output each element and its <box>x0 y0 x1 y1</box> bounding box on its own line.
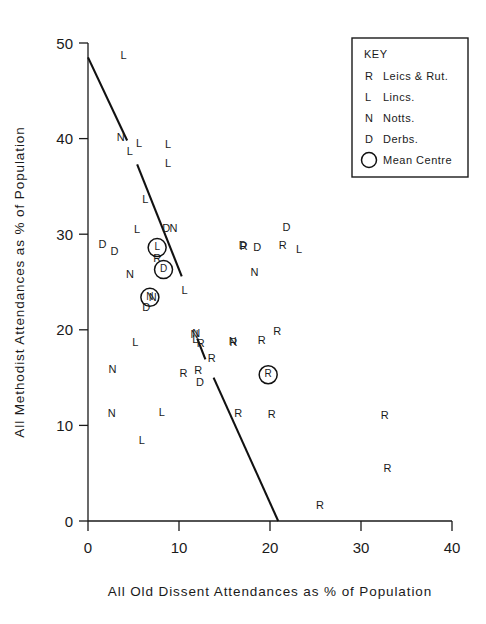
x-tick-label: 30 <box>353 539 370 556</box>
data-point-L: L <box>132 336 138 348</box>
mean-centre-label-L: L <box>154 241 160 252</box>
data-point-R: R <box>383 462 391 474</box>
x-axis-ticks: 010203040 <box>84 521 461 556</box>
data-point-D: D <box>253 241 261 253</box>
y-tick-label: 50 <box>56 35 73 52</box>
data-point-R: R <box>180 367 188 379</box>
y-axis-title: All Methodist Attendances as % of Popula… <box>12 126 27 437</box>
data-points-group: RRRRRRRRRRRRRRRLLLLLLLLLLLLLNNNNNNNNNNDD… <box>99 49 392 510</box>
x-axis-title: All Old Dissent Attendances as % of Popu… <box>108 584 432 599</box>
legend-label: Leics & Rut. <box>383 70 448 82</box>
data-point-R: R <box>258 334 266 346</box>
legend-symbol-R: R <box>365 70 373 82</box>
scatter-plot-figure: 01020304050 010203040 All Methodist Atte… <box>0 0 486 624</box>
data-point-L: L <box>136 137 142 149</box>
data-point-L: L <box>165 138 171 150</box>
data-point-L: L <box>181 284 187 296</box>
y-tick-label: 10 <box>56 417 73 434</box>
legend-label: Derbs. <box>383 133 418 145</box>
data-point-N: N <box>108 407 116 419</box>
x-tick-label: 0 <box>84 539 92 556</box>
data-point-R: R <box>234 407 242 419</box>
x-tick-label: 10 <box>171 539 188 556</box>
data-point-R: R <box>279 239 287 251</box>
data-point-R: R <box>268 408 276 420</box>
data-point-R: R <box>316 499 324 511</box>
data-point-L: L <box>165 157 171 169</box>
mean-centre-label-N: N <box>146 291 153 302</box>
data-point-R: R <box>153 252 161 264</box>
data-point-N: N <box>170 222 178 234</box>
data-point-N: N <box>229 335 237 347</box>
data-point-D: D <box>239 239 247 251</box>
data-point-R: R <box>194 364 202 376</box>
data-point-D: D <box>196 376 204 388</box>
data-point-L: L <box>159 406 165 418</box>
legend-label: Mean Centre <box>383 154 452 166</box>
legend-label: Lincs. <box>383 91 415 103</box>
y-tick-label: 20 <box>56 321 73 338</box>
data-point-R: R <box>208 352 216 364</box>
y-axis-ticks: 01020304050 <box>56 35 88 530</box>
data-point-D: D <box>99 238 107 250</box>
data-point-L: L <box>139 434 145 446</box>
data-point-N: N <box>109 363 117 375</box>
legend-title: KEY <box>364 48 388 60</box>
data-point-N: N <box>190 328 198 340</box>
trend-line-segment <box>214 378 279 521</box>
data-point-N: N <box>251 266 259 278</box>
y-tick-label: 30 <box>56 226 73 243</box>
data-point-L: L <box>120 49 126 61</box>
legend-label: Notts. <box>383 112 415 124</box>
data-point-D: D <box>282 221 290 233</box>
data-point-D: D <box>162 222 170 234</box>
legend-box: KEY RLeics & Rut.LLincs.NNotts.DDerbs.Me… <box>352 38 468 177</box>
data-point-L: L <box>134 223 140 235</box>
data-point-D: D <box>110 245 118 257</box>
data-point-N: N <box>117 131 125 143</box>
trend-line-segment <box>88 57 127 140</box>
legend-symbol-L: L <box>365 91 371 103</box>
data-point-R: R <box>381 409 389 421</box>
legend-symbol-D: D <box>365 133 373 145</box>
data-point-L: L <box>142 193 148 205</box>
data-point-L: L <box>127 145 133 157</box>
legend-symbol-N: N <box>365 112 373 124</box>
mean-centre-label-D: D <box>160 263 167 274</box>
plot-canvas: 01020304050 010203040 All Methodist Atte… <box>0 0 486 624</box>
y-tick-label: 40 <box>56 130 73 147</box>
data-point-L: L <box>296 243 302 255</box>
x-tick-label: 40 <box>444 539 461 556</box>
data-point-R: R <box>273 325 281 337</box>
mean-centre-label-R: R <box>265 368 272 379</box>
x-tick-label: 20 <box>262 539 279 556</box>
y-tick-label: 0 <box>65 513 73 530</box>
data-point-N: N <box>126 268 134 280</box>
